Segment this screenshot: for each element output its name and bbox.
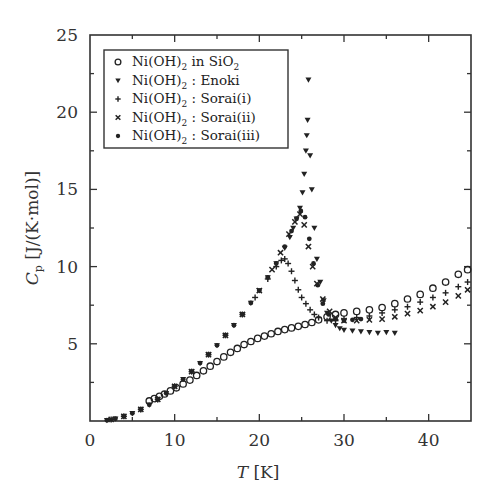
data-point bbox=[294, 216, 299, 221]
data-point bbox=[155, 397, 160, 402]
data-point bbox=[430, 285, 436, 291]
data-point bbox=[227, 349, 233, 355]
data-point bbox=[350, 317, 355, 322]
data-point bbox=[320, 301, 325, 306]
data-point bbox=[187, 377, 193, 383]
data-point bbox=[215, 343, 220, 348]
x-tick-label: 20 bbox=[249, 430, 271, 450]
data-point bbox=[189, 369, 194, 374]
data-point bbox=[278, 250, 283, 255]
data-point bbox=[307, 236, 312, 241]
data-point bbox=[404, 296, 410, 302]
data-point bbox=[379, 310, 385, 316]
data-point bbox=[223, 333, 228, 338]
data-point bbox=[326, 312, 331, 317]
data-point bbox=[295, 323, 301, 329]
data-point bbox=[234, 345, 240, 351]
data-point bbox=[442, 279, 448, 285]
data-point bbox=[307, 153, 313, 158]
data-point bbox=[164, 391, 169, 396]
data-point bbox=[341, 310, 347, 316]
data-point bbox=[333, 317, 338, 322]
data-point bbox=[392, 331, 398, 336]
data-point bbox=[198, 361, 203, 366]
data-point bbox=[275, 328, 281, 334]
data-point bbox=[306, 244, 311, 249]
data-point bbox=[207, 363, 213, 369]
data-point bbox=[302, 321, 308, 327]
data-point bbox=[309, 187, 315, 192]
data-point bbox=[392, 307, 398, 313]
data-point bbox=[315, 283, 320, 288]
y-tick-label: 20 bbox=[56, 102, 78, 122]
data-point bbox=[303, 149, 309, 154]
data-point bbox=[418, 308, 423, 313]
data-point bbox=[303, 301, 309, 307]
data-point bbox=[305, 78, 311, 83]
data-point bbox=[172, 384, 177, 389]
legend: Ni(OH)2 in SiO2Ni(OH)2 : EnokiNi(OH)2 : … bbox=[104, 50, 288, 148]
y-tick-label: 10 bbox=[56, 257, 78, 277]
data-point bbox=[298, 209, 303, 214]
data-point bbox=[301, 172, 307, 177]
y-axis-title: Cp [J/(K·mol)] bbox=[22, 171, 45, 285]
data-point bbox=[305, 118, 311, 123]
data-point bbox=[257, 288, 262, 293]
data-point bbox=[443, 300, 448, 305]
data-point bbox=[405, 311, 410, 316]
data-point bbox=[366, 307, 372, 313]
data-point bbox=[311, 311, 317, 317]
data-point bbox=[304, 133, 310, 138]
data-point bbox=[206, 352, 211, 357]
data-point bbox=[138, 407, 143, 412]
data-point bbox=[354, 308, 360, 314]
data-point bbox=[265, 275, 270, 280]
data-point bbox=[289, 268, 295, 274]
data-point bbox=[252, 294, 258, 300]
series-3 bbox=[109, 212, 471, 423]
data-point bbox=[342, 318, 347, 323]
data-point bbox=[443, 290, 449, 296]
data-point bbox=[232, 323, 237, 328]
data-point bbox=[292, 277, 298, 283]
data-point bbox=[380, 316, 385, 321]
data-point bbox=[430, 304, 435, 309]
data-point bbox=[288, 325, 294, 331]
x-tick-label: 0 bbox=[85, 430, 96, 450]
data-point bbox=[181, 377, 186, 382]
data-point bbox=[295, 287, 301, 293]
data-point bbox=[379, 304, 385, 310]
data-point bbox=[289, 229, 294, 234]
data-point bbox=[300, 190, 306, 195]
data-point bbox=[261, 333, 267, 339]
data-point bbox=[349, 328, 355, 333]
data-point bbox=[282, 244, 287, 249]
data-point bbox=[405, 304, 411, 310]
data-point bbox=[311, 261, 316, 266]
legend-marker-icon bbox=[116, 134, 120, 138]
x-tick-label: 40 bbox=[418, 430, 440, 450]
data-point bbox=[285, 261, 291, 267]
data-point bbox=[358, 329, 364, 334]
x-axis-title: T [K] bbox=[237, 462, 280, 482]
data-point bbox=[302, 222, 307, 227]
data-point bbox=[193, 372, 199, 378]
y-tick-label: 5 bbox=[67, 334, 78, 354]
series-0 bbox=[146, 266, 471, 404]
data-point bbox=[113, 416, 118, 421]
heat-capacity-chart: 010203040510152025 Ni(OH)2 in SiO2Ni(OH)… bbox=[0, 0, 489, 498]
data-point bbox=[105, 418, 110, 423]
data-point bbox=[456, 293, 461, 298]
data-point bbox=[240, 312, 245, 317]
y-tick-label: 25 bbox=[56, 25, 78, 45]
data-point bbox=[309, 319, 315, 325]
data-point bbox=[214, 358, 220, 364]
data-point bbox=[465, 287, 470, 292]
data-point bbox=[341, 328, 347, 333]
data-point bbox=[130, 411, 135, 416]
data-point bbox=[274, 261, 279, 266]
data-point bbox=[455, 271, 461, 277]
data-point bbox=[311, 226, 317, 231]
data-point bbox=[269, 267, 274, 272]
data-point bbox=[303, 215, 308, 220]
